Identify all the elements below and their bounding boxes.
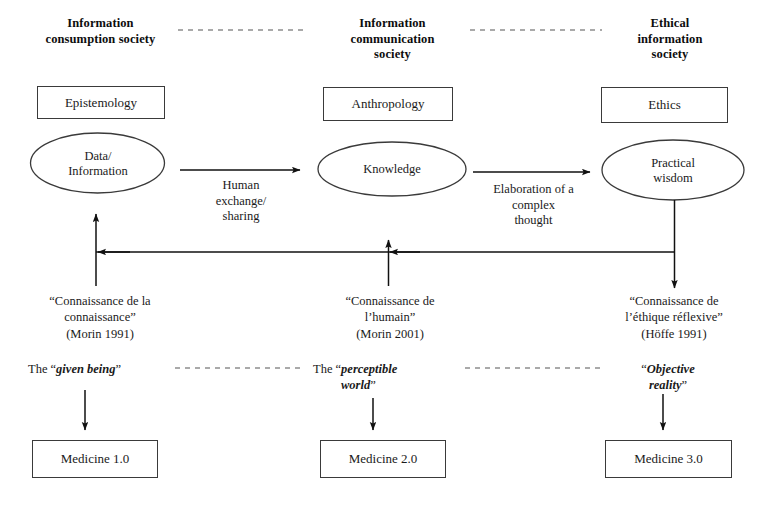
ellipse-label-knowledge: Knowledge: [325, 158, 459, 180]
box-epistemology-label: Epistemology: [65, 95, 137, 111]
arrow-caption-line: Elaboration of a: [466, 182, 601, 198]
quote-connaissance-de-l-ethique-reflexive: “Connaissance de l’éthique réflexive” (H…: [588, 293, 760, 342]
quote-line: (Morin 2001): [315, 326, 465, 342]
quote-line: (Höffe 1991): [588, 326, 760, 342]
column-header-ethical-information-society: Ethical information society: [600, 16, 740, 63]
phrase-prefix: The “: [313, 362, 341, 376]
phrase-prefix: The “: [28, 362, 56, 376]
column-header-information-consumption-society: Information consumption society: [8, 16, 193, 47]
quote-line: l’humain”: [315, 309, 465, 325]
arrow-caption-line: exchange/: [185, 194, 297, 210]
quote-connaissance-de-la-connaissance: “Connaissance de la connaissance” (Morin…: [20, 293, 180, 342]
diagram-vector-layer: [0, 0, 768, 509]
arrow-caption-human-exchange: Human exchange/ sharing: [185, 178, 297, 225]
box-ethics: Ethics: [601, 87, 728, 123]
phrase-perceptible-world: The “perceptible world”: [305, 361, 473, 394]
quote-line: “Connaissance de la: [20, 293, 180, 309]
box-medicine-2-label: Medicine 2.0: [349, 451, 418, 467]
box-epistemology: Epistemology: [37, 86, 165, 119]
phrase-objective-reality: “Objective reality”: [598, 361, 738, 394]
arrow-caption-line: complex: [466, 198, 601, 214]
ellipse-label-line: Knowledge: [363, 162, 421, 177]
ellipse-label-data-information: Data/ Information: [31, 143, 165, 185]
box-anthropology-label: Anthropology: [352, 96, 425, 112]
phrase-suffix-2: ”: [370, 378, 376, 392]
box-medicine-1: Medicine 1.0: [32, 440, 158, 478]
phrase-emphasis: Objective: [647, 362, 695, 376]
box-anthropology: Anthropology: [323, 87, 453, 121]
column-header-line: communication: [310, 32, 475, 48]
quote-line: connaissance”: [20, 309, 180, 325]
column-header-line: society: [310, 47, 475, 63]
box-medicine-1-label: Medicine 1.0: [61, 451, 130, 467]
phrase-line: The “perceptible: [313, 361, 473, 377]
phrase-given-being: The “given being”: [18, 361, 183, 377]
phrase-emphasis: perceptible: [341, 362, 397, 376]
ellipse-label-practical-wisdom: Practical wisdom: [606, 150, 740, 192]
quote-connaissance-de-l-humain: “Connaissance de l’humain” (Morin 2001): [315, 293, 465, 342]
column-header-line: consumption society: [8, 32, 193, 48]
phrase-line: reality”: [598, 377, 738, 393]
quote-line: (Morin 1991): [20, 326, 180, 342]
ellipse-label-line: Data/: [84, 149, 111, 164]
column-header-line: society: [600, 47, 740, 63]
column-header-line: Information: [310, 16, 475, 32]
phrase-line: world”: [313, 377, 473, 393]
phrase-emphasis-2: reality: [649, 378, 682, 392]
box-ethics-label: Ethics: [648, 97, 681, 113]
phrase-suffix-2: ”: [682, 378, 688, 392]
quote-line: “Connaissance de: [315, 293, 465, 309]
ellipse-label-line: Practical: [651, 156, 695, 171]
column-header-line: Ethical: [600, 16, 740, 32]
arrow-caption-line: Human: [185, 178, 297, 194]
arrow-caption-line: sharing: [185, 209, 297, 225]
phrase-emphasis-2: world: [341, 378, 370, 392]
column-header-line: Information: [8, 16, 193, 32]
quote-line: “Connaissance de: [588, 293, 760, 309]
box-medicine-3-label: Medicine 3.0: [634, 451, 703, 467]
column-header-information-communication-society: Information communication society: [310, 16, 475, 63]
phrase-emphasis: given being: [56, 362, 115, 376]
arrow-caption-line: thought: [466, 213, 601, 229]
ellipse-label-line: wisdom: [653, 171, 693, 186]
column-header-line: information: [600, 32, 740, 48]
ellipse-label-line: Information: [68, 164, 128, 179]
diagram-canvas: Information consumption society Informat…: [0, 0, 768, 509]
phrase-line: The “given being”: [28, 361, 183, 377]
phrase-suffix: ”: [115, 362, 121, 376]
phrase-line: “Objective: [598, 361, 738, 377]
quote-line: l’éthique réflexive”: [588, 309, 760, 325]
arrow-caption-elaboration: Elaboration of a complex thought: [466, 182, 601, 229]
box-medicine-2: Medicine 2.0: [320, 440, 446, 478]
box-medicine-3: Medicine 3.0: [605, 440, 732, 478]
